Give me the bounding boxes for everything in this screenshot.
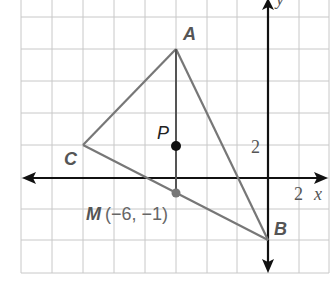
point-m: [172, 189, 181, 198]
x-tick-label: 2: [294, 184, 303, 204]
label-m: M: [86, 204, 102, 224]
label-a: A: [182, 24, 196, 44]
label-b: B: [274, 219, 287, 239]
label-p: P: [157, 123, 169, 143]
y-tick-label: 2: [251, 137, 260, 157]
label-c: C: [64, 149, 78, 169]
coordinate-plane: A B C P M (−6, −1) 2 2 x y: [0, 0, 336, 293]
label-m-coordinates: (−6, −1): [105, 204, 168, 224]
point-p: [171, 141, 181, 151]
y-axis-label: y: [274, 0, 284, 9]
x-axis-label: x: [313, 184, 322, 204]
